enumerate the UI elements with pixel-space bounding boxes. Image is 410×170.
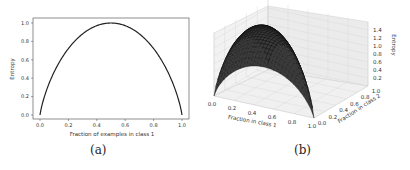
z-axis-label: Entropy (390, 34, 397, 56)
caption-a: (a) (90, 143, 107, 157)
x-tick-label: 0.4 (93, 122, 101, 128)
x-tick-label: 0.6 (268, 114, 277, 120)
entropy-3d-surface-chart: 0.00.20.40.60.81.0 0.00.20.40.60.81.0 0.… (200, 0, 410, 140)
z-tick-label: 0.6 (373, 59, 382, 65)
chart-panel-a: 0.00.20.40.60.81.0 0.00.20.40.60.81.0 Fr… (0, 0, 200, 170)
x-axis-label: Fraction of examples in class 1 (70, 131, 155, 138)
y-tick-label: 0.0 (21, 112, 29, 118)
x-tick-label: 0.0 (36, 122, 44, 128)
y-axis-label: Entropy (9, 58, 16, 80)
z-tick-label: 1.4 (373, 27, 382, 33)
z-tick-label: 0.8 (373, 51, 382, 57)
x-tick-label: 0.8 (150, 122, 158, 128)
x-tick-label: 0.0 (208, 101, 217, 107)
y-tick-label: 0.6 (21, 57, 29, 63)
x-tick-label: 0.2 (64, 122, 72, 128)
x-tick-label: 0.2 (228, 105, 237, 111)
z-axis-ticks: 0.20.40.60.81.01.21.4 (373, 27, 382, 81)
y-tick-label: 0.2 (21, 93, 29, 99)
x-tick-label: 1.0 (178, 122, 186, 128)
y-axis-ticks: 0.00.20.40.60.81.0 (21, 20, 33, 118)
x-tick-label: 0.6 (121, 122, 129, 128)
y-tick-label: 0.8 (21, 38, 29, 44)
y-tick-label: 1.0 (21, 20, 29, 26)
x-axis-ticks: 0.00.20.40.60.81.0 (36, 119, 186, 128)
x-tick-label: 1.0 (308, 123, 317, 129)
z-tick-label: 1.2 (373, 35, 382, 41)
entropy-line-chart: 0.00.20.40.60.81.0 0.00.20.40.60.81.0 Fr… (0, 0, 200, 140)
caption-b: (b) (294, 143, 311, 157)
x-tick-label: 0.4 (248, 110, 257, 116)
z-tick-label: 0.4 (373, 67, 382, 73)
x-tick-label: 0.8 (288, 119, 297, 125)
chart-panel-b: 0.00.20.40.60.81.0 0.00.20.40.60.81.0 0.… (200, 0, 410, 170)
z-tick-label: 1.0 (373, 43, 382, 49)
y-tick-label: 0.4 (21, 75, 29, 81)
z-tick-label: 0.2 (373, 75, 382, 81)
y-tick-label: 0.0 (318, 120, 327, 126)
